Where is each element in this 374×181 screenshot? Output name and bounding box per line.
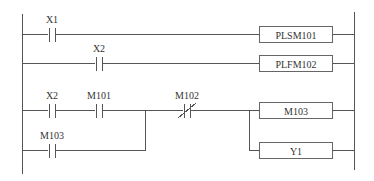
contact-label: X2 (46, 90, 58, 101)
output-label: PLSM101 (275, 30, 316, 41)
contact-label: M101 (87, 90, 111, 101)
rung-3: X2 M101 M103 M102 M103 Y1 (22, 90, 354, 159)
output-label: M103 (284, 106, 308, 117)
contact-label: M102 (175, 90, 199, 101)
contact-label: X2 (93, 43, 105, 54)
rung-1: X1 PLSM101 (22, 14, 354, 43)
contact-no-x2-rung3 (50, 104, 56, 118)
contact-label: X1 (46, 14, 58, 25)
output-label: Y1 (290, 146, 302, 157)
rung-2: X2 PLFM102 (22, 43, 354, 72)
contact-no-x2 (97, 57, 103, 71)
contact-no-m103 (50, 144, 56, 158)
output-label: PLFM102 (275, 59, 316, 70)
contact-no-x1 (50, 28, 56, 42)
ladder-diagram: X1 PLSM101 X2 PLFM102 (0, 0, 374, 181)
contact-no-m101 (97, 104, 103, 118)
contact-label: M103 (40, 130, 64, 141)
